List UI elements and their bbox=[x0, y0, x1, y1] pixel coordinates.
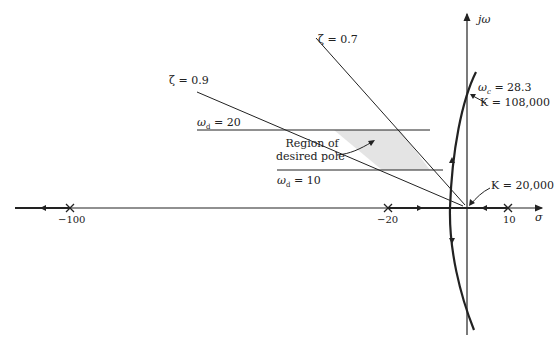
locus-arrow-down bbox=[449, 238, 455, 244]
crossing-leader-arrowhead bbox=[470, 94, 476, 99]
locus-arrow-right bbox=[481, 205, 487, 211]
imag-axis-label: jω bbox=[478, 14, 490, 25]
zeta-0.9-label: ζ = 0.9 bbox=[169, 75, 209, 86]
pole-minus-100-label: −100 bbox=[58, 215, 85, 225]
region-label-line1: Region of bbox=[282, 138, 342, 149]
real-axis-label: σ bbox=[535, 212, 543, 223]
pole-minus-20-label: −20 bbox=[377, 215, 398, 225]
breakaway-leader-arrow bbox=[471, 188, 490, 204]
locus-arrow-mid bbox=[417, 205, 423, 211]
omega-d-10-label: ωd = 10 bbox=[277, 175, 321, 189]
zeta-0.7-line bbox=[316, 38, 465, 205]
omega-d-20-label: ωd = 20 bbox=[197, 117, 241, 131]
locus-arrow-left bbox=[40, 205, 46, 211]
breakaway-gain-label: K = 20,000 bbox=[491, 180, 554, 191]
crossing-omega-label: ωc = 28.3 bbox=[478, 82, 532, 96]
region-label-line2: desired pole bbox=[276, 151, 345, 162]
pole-10-label: 10 bbox=[503, 215, 516, 225]
crossing-gain-label: K = 108,000 bbox=[480, 97, 550, 108]
root-locus-diagram: jω σ −100 −20 10 ζ = 0.9 ζ = 0.7 ωd = 20… bbox=[0, 0, 557, 344]
diagram-canvas bbox=[0, 0, 557, 344]
zeta-0.7-label: ζ = 0.7 bbox=[318, 34, 358, 45]
